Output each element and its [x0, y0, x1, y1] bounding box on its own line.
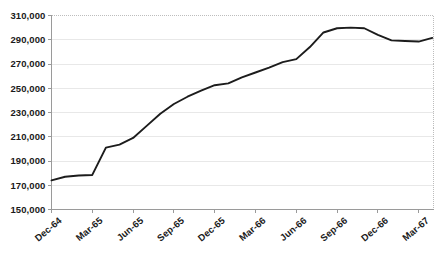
- x-tick-label: Mar-66: [237, 215, 268, 244]
- y-tick-label: 190,000: [10, 155, 45, 166]
- y-tick-label: 210,000: [10, 131, 45, 142]
- x-tick-label: Jun-65: [114, 214, 145, 243]
- x-tick-label: Mar-65: [74, 214, 105, 243]
- line-chart: 150,000170,000190,000210,000230,000250,0…: [0, 0, 442, 257]
- x-tick-label: Sep-65: [155, 214, 187, 243]
- y-tick-label: 230,000: [10, 107, 45, 118]
- series-line: [52, 28, 433, 181]
- x-tick-label: Dec-64: [32, 214, 64, 243]
- y-tick-label: 250,000: [10, 83, 45, 94]
- y-axis-tick-labels: 150,000170,000190,000210,000230,000250,0…: [10, 10, 45, 215]
- x-tick-label: Sep-66: [318, 215, 349, 244]
- y-tick-label: 150,000: [10, 204, 45, 215]
- y-tick-label: 310,000: [10, 10, 45, 21]
- x-tick-label: Dec-65: [196, 214, 228, 243]
- x-tick-label: Mar-67: [400, 215, 431, 244]
- grid-lines: [52, 40, 434, 186]
- chart-canvas: 150,000170,000190,000210,000230,000250,0…: [0, 0, 442, 257]
- x-tick-label: Dec-66: [359, 215, 390, 244]
- y-tick-label: 270,000: [10, 58, 45, 69]
- data-series: [52, 28, 433, 181]
- y-tick-label: 170,000: [10, 180, 45, 191]
- x-tick-label: Jun-66: [278, 215, 309, 244]
- x-axis-tick-labels: Dec-64Mar-65Jun-65Sep-65Dec-65Mar-66Jun-…: [32, 214, 431, 243]
- y-tick-label: 290,000: [10, 34, 45, 45]
- x-tick-marks: [52, 210, 419, 214]
